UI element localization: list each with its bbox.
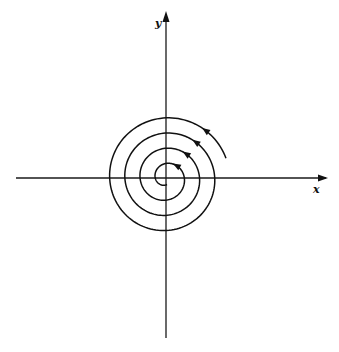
y-axis-arrowhead <box>163 11 170 22</box>
x-axis-arrowhead <box>318 175 328 182</box>
x-axis-label: x <box>312 183 320 196</box>
phase-portrait: x y <box>0 0 339 352</box>
y-axis-label: y <box>154 17 163 30</box>
spiral-trajectory <box>110 118 226 231</box>
